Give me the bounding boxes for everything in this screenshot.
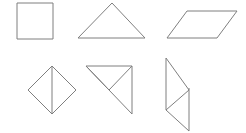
geometric-shapes-figure (0, 0, 246, 133)
